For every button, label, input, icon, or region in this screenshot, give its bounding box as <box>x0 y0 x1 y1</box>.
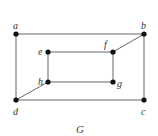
label-c: c <box>141 106 146 117</box>
graph-diagram: a b c d e f g h G <box>0 0 158 136</box>
vertex-b <box>141 31 146 36</box>
vertex-labels: a b c d e f g h <box>13 20 146 117</box>
label-d: d <box>13 106 19 117</box>
graph-caption: G <box>76 123 84 135</box>
label-e: e <box>38 46 43 57</box>
edges <box>16 34 144 100</box>
vertex-a <box>13 31 18 36</box>
label-b: b <box>141 20 146 31</box>
label-a: a <box>13 20 18 31</box>
vertex-f <box>110 49 115 54</box>
vertex-e <box>45 49 50 54</box>
vertex-d <box>13 97 18 102</box>
vertex-g <box>110 79 115 84</box>
edge-b-f <box>113 34 144 52</box>
label-f: f <box>104 39 108 50</box>
vertex-c <box>141 97 146 102</box>
vertex-h <box>45 79 50 84</box>
edge-d-h <box>16 82 48 100</box>
vertices <box>13 31 146 102</box>
label-h: h <box>38 76 43 87</box>
label-g: g <box>117 78 122 89</box>
